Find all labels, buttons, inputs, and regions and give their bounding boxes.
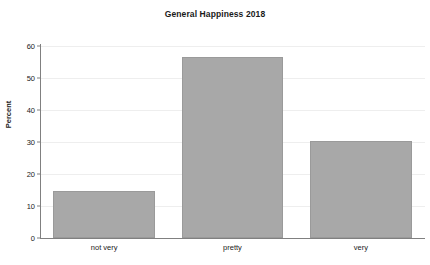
y-tick-label: 60: [5, 42, 35, 51]
bar: [182, 57, 283, 238]
y-tick-label: 10: [5, 202, 35, 211]
y-tick-mark: [37, 46, 40, 47]
y-tick-label: 40: [5, 106, 35, 115]
y-tick-mark: [37, 110, 40, 111]
y-tick-mark: [37, 206, 40, 207]
y-tick-label: 30: [5, 138, 35, 147]
bar: [310, 141, 411, 238]
y-tick-mark: [37, 78, 40, 79]
chart-title: General Happiness 2018: [0, 9, 430, 19]
gridline: [40, 46, 425, 47]
x-axis-line: [40, 238, 425, 239]
y-tick-label: 50: [5, 74, 35, 83]
x-tick-label: not very: [40, 243, 168, 252]
y-tick-mark: [37, 142, 40, 143]
x-tick-label: very: [297, 243, 425, 252]
y-axis-tick-labels: 0102030405060: [0, 0, 35, 265]
y-tick-mark: [37, 238, 40, 239]
bar-chart: General Happiness 2018 Percent 010203040…: [0, 0, 430, 265]
y-tick-label: 20: [5, 170, 35, 179]
y-tick-mark: [37, 174, 40, 175]
bar: [53, 191, 154, 238]
y-axis-line: [40, 44, 41, 239]
y-tick-label: 0: [5, 234, 35, 243]
x-tick-label: pretty: [168, 243, 296, 252]
